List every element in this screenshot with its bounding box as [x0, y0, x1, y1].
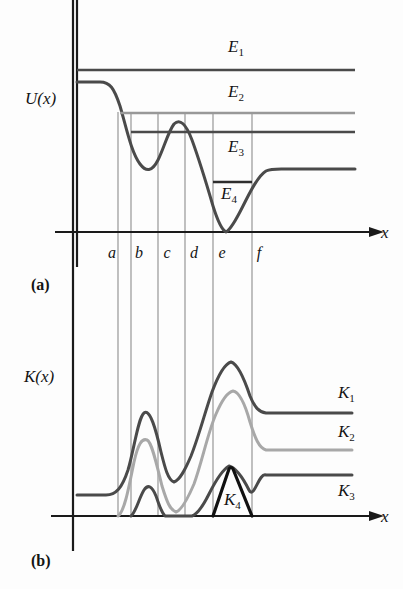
panel-b-y-axis-label: K(x) [23, 367, 55, 386]
panel-a: E1E2E3E4 abcdef U(x) x (a) [25, 0, 389, 294]
energy-level-e4-label-subscript: 4 [231, 193, 237, 205]
panel-a-x-axis-label: x [380, 223, 389, 242]
x-tick-label-f: f [257, 244, 264, 262]
energy-level-e2-label-subscript: 2 [238, 91, 244, 103]
kinetic-curve-k2-label: K2 [337, 422, 355, 443]
kinetic-curve-k4-label: K4 [223, 490, 241, 511]
panel-a-caption-label: (a) [31, 276, 50, 294]
gridline-group [118, 112, 252, 516]
physics-figure-container: E1E2E3E4 abcdef U(x) x (a) K1K2K3K4 K(x)… [0, 0, 403, 589]
energy-level-e4-label: E4 [220, 184, 237, 205]
energy-level-e3-label-base: E [227, 137, 239, 156]
energy-level-e1-label: E1 [227, 37, 244, 58]
figure-svg: E1E2E3E4 abcdef U(x) x (a) K1K2K3K4 K(x)… [0, 0, 403, 589]
x-tick-label-c: c [163, 244, 170, 261]
kinetic-curve-k1-label-subscript: 1 [349, 392, 355, 404]
kinetic-curve-k4-label-subscript: 4 [235, 499, 241, 511]
energy-level-e1-label-base: E [227, 37, 239, 56]
x-tick-label-d: d [190, 244, 199, 261]
x-tick-label-b: b [135, 244, 143, 261]
energy-level-e1-label-subscript: 1 [238, 46, 244, 58]
x-tick-label-e: e [218, 244, 225, 261]
energy-level-e3-label: E3 [227, 137, 244, 158]
panel-b-caption-label: (b) [31, 552, 51, 570]
energy-level-e3-label-subscript: 3 [238, 146, 244, 158]
energy-level-e4-label-base: E [220, 184, 232, 203]
kinetic-curve-k3-label: K3 [337, 481, 355, 502]
potential-energy-curve [77, 82, 355, 232]
energy-level-e2-label-base: E [227, 82, 239, 101]
energy-level-label-group: E1E2E3E4 [220, 37, 244, 205]
kinetic-curve-k1-label: K1 [337, 383, 355, 404]
panel-b-x-axis-label: x [380, 507, 389, 526]
energy-level-group [77, 70, 355, 182]
x-tick-label-a: a [108, 244, 116, 261]
kinetic-curve-k2-label-subscript: 2 [349, 431, 355, 443]
energy-level-e2-label: E2 [227, 82, 244, 103]
panel-a-y-axis-label: U(x) [25, 89, 56, 108]
kinetic-curve-k3-label-subscript: 3 [349, 490, 355, 502]
